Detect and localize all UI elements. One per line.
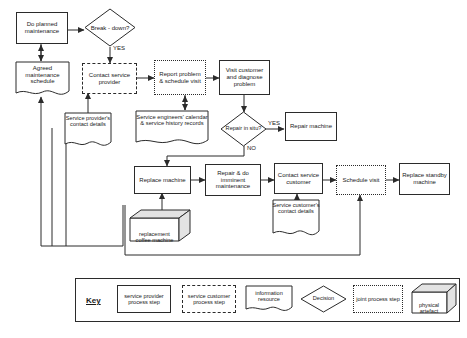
key-item-information-resource: information resource bbox=[245, 285, 293, 315]
node-label: Repair machine bbox=[288, 123, 334, 130]
node-service-engineers-records[interactable]: Service engineers' calendar & service hi… bbox=[135, 110, 209, 148]
node-label: Repair & do imminent maintenance bbox=[206, 170, 260, 190]
node-label: Replace machine bbox=[137, 177, 187, 184]
node-report-problem-schedule-visit[interactable]: Report problem & schedule visit bbox=[154, 60, 206, 95]
node-contact-service-provider[interactable]: Contact service provider bbox=[82, 63, 137, 94]
node-replacement-coffee-machine[interactable]: replacement coffee machine bbox=[129, 209, 191, 242]
key-title: Key bbox=[86, 296, 101, 305]
key-item-label: service customer process step bbox=[183, 293, 235, 306]
node-repair-do-imminent-maintenance[interactable]: Repair & do imminent maintenance bbox=[205, 164, 261, 196]
edge-label-repair-in-situ-yes: YES bbox=[268, 120, 280, 126]
node-label: replacement coffee machine bbox=[131, 231, 178, 244]
node-replace-machine[interactable]: Replace machine bbox=[134, 166, 191, 194]
node-replace-standby-machine[interactable]: Replace standby machine bbox=[399, 163, 450, 195]
node-repair-in-situ-decision[interactable]: Repair in situ? bbox=[220, 111, 267, 147]
node-label: Schedule visit bbox=[340, 177, 381, 184]
node-service-provider-contact-details[interactable]: Service provider's contact details bbox=[64, 112, 112, 149]
node-label: Agreed maintenance schedule bbox=[15, 65, 70, 85]
key-item-label: service provider process step bbox=[118, 293, 170, 306]
key-item-label: Decision bbox=[300, 296, 347, 302]
key-item-service-customer-process-step: service customer process step bbox=[182, 285, 236, 313]
node-contact-service-customer[interactable]: Contact service customer bbox=[274, 163, 323, 194]
node-repair-machine[interactable]: Repair machine bbox=[285, 112, 337, 141]
key-item-service-provider-process-step: service provider process step bbox=[117, 285, 171, 313]
node-schedule-visit[interactable]: Schedule visit bbox=[336, 165, 386, 195]
edge-label-repair-in-situ-no: NO bbox=[247, 145, 256, 151]
key-item-joint-process-step: joint process step bbox=[353, 285, 403, 313]
node-do-planned-maintenance[interactable]: Do planned maintenance bbox=[16, 12, 68, 44]
edge-repairinsitu-no bbox=[167, 146, 244, 166]
node-label: Report problem & schedule visit bbox=[155, 71, 205, 84]
node-label: Contact service provider bbox=[83, 72, 136, 85]
key-item-label: joint process step bbox=[356, 296, 400, 302]
node-label: Replace standby machine bbox=[400, 172, 449, 185]
flowchart-canvas: Do planned maintenance Break - down? YES… bbox=[0, 0, 467, 338]
node-label: Do planned maintenance bbox=[17, 21, 67, 34]
key-item-label: information resource bbox=[245, 290, 293, 303]
node-breakdown-decision[interactable]: Break - down? bbox=[84, 8, 136, 47]
node-service-customer-contact-details[interactable]: Service customer's contact details bbox=[272, 199, 320, 239]
node-agreed-maintenance-schedule[interactable]: Agreed maintenance schedule bbox=[15, 61, 70, 98]
edge-label-breakdown-yes: YES bbox=[113, 45, 125, 51]
node-label: Break - down? bbox=[84, 24, 136, 30]
node-label: Service engineers' calendar & service hi… bbox=[135, 114, 209, 127]
key-item-decision: Decision bbox=[300, 285, 347, 313]
node-visit-customer-diagnose[interactable]: Visit customer and diagnose problem bbox=[219, 60, 270, 95]
node-label: Repair in situ? bbox=[220, 126, 267, 132]
key-item-physical-artefact: physical artefact bbox=[411, 283, 457, 314]
node-label: Service customer's contact details bbox=[272, 202, 320, 215]
node-label: Visit customer and diagnose problem bbox=[220, 67, 269, 87]
node-label: Service provider's contact details bbox=[64, 115, 112, 128]
key-item-label: physical artefact bbox=[412, 302, 446, 315]
node-label: Contact service customer bbox=[275, 172, 322, 185]
